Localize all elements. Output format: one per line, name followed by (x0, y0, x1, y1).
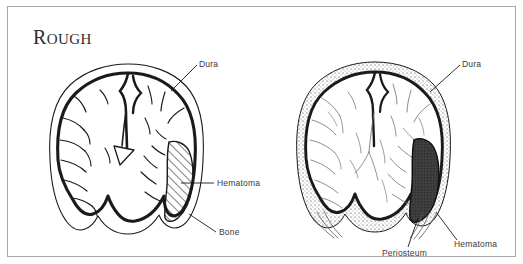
label-hematoma-rough: Hematoma (217, 178, 260, 188)
label-dura-rough: Dura (199, 59, 218, 69)
label-periosteum-polished: Periosteum (382, 248, 427, 258)
label-bone-rough: Bone (219, 227, 240, 237)
leader-line-bone-rough (189, 214, 216, 232)
figure-root: ROUGH (0, 0, 523, 264)
leader-line-dura-polished (430, 65, 460, 92)
panel-rough: ROUGH (0, 0, 262, 264)
brain-diagram-rough (0, 0, 262, 264)
leader-line-hematoma-polished (436, 212, 457, 240)
brain-diagram-polished (262, 0, 523, 264)
label-dura-polished: Dura (462, 59, 481, 69)
label-hematoma-polished: Hematoma (454, 239, 497, 249)
panel-polished: POLISHED (262, 0, 523, 264)
